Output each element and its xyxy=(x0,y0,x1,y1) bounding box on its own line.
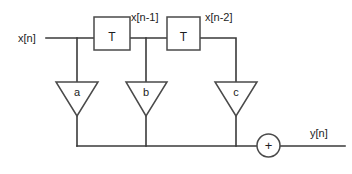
gain-triangle-b-label: b xyxy=(143,86,149,98)
gain-triangle-a[interactable]: a xyxy=(56,82,98,116)
delay1-output-signal-label: x[n-1] xyxy=(131,11,159,23)
wire-delay2-to-gain-c xyxy=(200,38,236,82)
input-signal-label: x[n] xyxy=(18,32,36,44)
adder-node[interactable]: + xyxy=(257,134,280,157)
block-diagram-canvas: T T a b c + x[n] x[n-1] x[n-2] xyxy=(0,0,352,174)
delay-block-1[interactable]: T xyxy=(94,17,130,50)
gain-triangle-b[interactable]: b xyxy=(126,82,167,116)
plus-icon: + xyxy=(265,138,273,153)
gain-triangle-c[interactable]: c xyxy=(215,82,257,116)
output-signal-label: y[n] xyxy=(310,127,328,139)
gain-triangle-a-label: a xyxy=(74,86,81,98)
delay-block-2-label: T xyxy=(180,30,188,44)
delay2-output-signal-label: x[n-2] xyxy=(205,11,233,23)
block-diagram-svg: T T a b c + x[n] x[n-1] x[n-2] xyxy=(0,0,352,174)
delay-block-2[interactable]: T xyxy=(167,17,200,50)
delay-block-1-label: T xyxy=(108,30,116,44)
gain-triangle-c-label: c xyxy=(233,86,239,98)
